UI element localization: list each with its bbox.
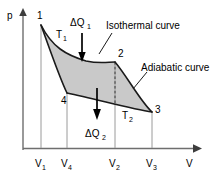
tick-label-v4-base: V: [61, 158, 68, 169]
adiabatic-curve-label: Adiabatic curve: [141, 62, 210, 73]
y-axis-label: p: [7, 10, 13, 21]
point-label-3: 3: [155, 104, 161, 115]
tick-label-v4: V 4: [61, 158, 72, 171]
temperature-label-t2-base: T: [122, 110, 128, 121]
isothermal-label-leader: [99, 33, 112, 54]
y-axis-arrowhead: [19, 8, 27, 16]
tick-label-v1-base: V: [35, 158, 42, 169]
temperature-label-t2-sub: 2: [129, 116, 133, 123]
point-label-2: 2: [118, 48, 124, 59]
tick-label-v2-sub: 2: [116, 164, 120, 171]
tick-label-v3-base: V: [146, 158, 153, 169]
heat-label-q1: ΔQ 1: [70, 17, 91, 30]
carnot-cycle-diagram: p V V 1 V 4 V 2 V 3 1 2 3 4 T 1 T 2: [0, 0, 224, 175]
pv-diagram-canvas: p V V 1 V 4 V 2 V 3 1 2 3 4 T 1 T 2: [0, 0, 224, 175]
x-axis-label: V: [186, 158, 193, 169]
temperature-label-t1: T 1: [56, 29, 67, 42]
tick-label-v3: V 3: [146, 158, 157, 171]
tick-label-v4-sub: 4: [68, 164, 72, 171]
point-label-4: 4: [61, 95, 67, 106]
tick-label-v2-base: V: [109, 158, 116, 169]
x-axis-arrowhead: [193, 144, 202, 152]
tick-label-v1: V 1: [35, 158, 46, 171]
heat-label-q2-base: ΔQ: [85, 128, 100, 139]
temperature-label-t1-sub: 1: [63, 35, 67, 42]
point-label-1: 1: [37, 10, 43, 21]
heat-label-q2-sub: 2: [102, 134, 106, 141]
heat-label-q2: ΔQ 2: [85, 128, 106, 141]
heat-out-arrow-head: [93, 109, 101, 120]
tick-label-v3-sub: 3: [153, 164, 157, 171]
temperature-label-t2: T 2: [122, 110, 133, 123]
tick-label-v1-sub: 1: [42, 164, 46, 171]
adiabatic-label-leader: [133, 72, 147, 89]
temperature-label-t1-base: T: [56, 29, 62, 40]
isothermal-curve-label: Isothermal curve: [106, 20, 180, 31]
heat-label-q1-sub: 1: [87, 23, 91, 30]
tick-label-v2: V 2: [109, 158, 120, 171]
heat-label-q1-base: ΔQ: [70, 17, 85, 28]
